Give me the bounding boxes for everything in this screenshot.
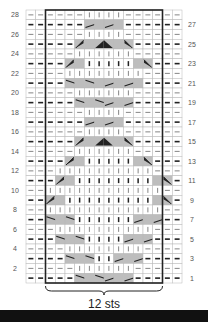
row-number-label: 15 bbox=[188, 138, 196, 145]
chart-cell bbox=[114, 137, 124, 147]
chart-cell bbox=[133, 59, 143, 69]
row-number-label: 22 bbox=[11, 70, 19, 77]
row-number-label: 9 bbox=[190, 197, 194, 204]
chart-cell bbox=[94, 78, 104, 88]
row-number-label: 25 bbox=[188, 41, 196, 48]
chart-cell bbox=[75, 156, 85, 166]
row-number-label: 7 bbox=[190, 216, 194, 223]
chart-cell bbox=[65, 176, 75, 186]
stitch-brace bbox=[46, 286, 163, 295]
row-number-label: 16 bbox=[11, 128, 19, 135]
row-number-label: 4 bbox=[13, 245, 17, 252]
chart-cell bbox=[114, 78, 124, 88]
chart-cell bbox=[114, 20, 124, 30]
chart-cell bbox=[75, 254, 85, 264]
row-number-label: 24 bbox=[11, 50, 19, 57]
stitch-count-label: 12 sts bbox=[88, 297, 120, 311]
chart-cell bbox=[55, 195, 65, 205]
chart-cell bbox=[85, 137, 95, 147]
chart-cell bbox=[85, 39, 95, 49]
chart-cell bbox=[133, 234, 143, 244]
bottom-bar bbox=[0, 310, 208, 322]
chart-cell bbox=[153, 176, 163, 186]
row-number-label: 18 bbox=[11, 109, 19, 116]
row-number-label: 27 bbox=[188, 21, 196, 28]
chart-cell bbox=[94, 20, 104, 30]
chart-cell bbox=[114, 39, 124, 49]
row-number-label: 6 bbox=[13, 226, 17, 233]
row-number-label: 5 bbox=[190, 236, 194, 243]
row-number-label: 20 bbox=[11, 89, 19, 96]
row-number-label: 3 bbox=[190, 255, 194, 262]
row-number-label: 17 bbox=[188, 119, 196, 126]
chart-cell bbox=[75, 59, 85, 69]
row-number-label: 19 bbox=[188, 99, 196, 106]
chart-cell bbox=[94, 117, 104, 127]
row-number-label: 13 bbox=[188, 158, 196, 165]
row-number-label: 28 bbox=[11, 11, 19, 18]
chart-cell bbox=[133, 78, 143, 88]
chart-cell bbox=[133, 156, 143, 166]
chart-cell bbox=[85, 98, 95, 108]
row-number-label: 1 bbox=[190, 275, 194, 282]
chart-cell bbox=[55, 215, 65, 225]
chart-cell bbox=[65, 234, 75, 244]
row-number-label: 21 bbox=[188, 80, 196, 87]
chart-cell bbox=[75, 78, 85, 88]
chart-cell bbox=[114, 273, 124, 283]
row-number-label: 2 bbox=[13, 265, 17, 272]
row-number-label: 11 bbox=[188, 177, 195, 184]
chart-cell bbox=[124, 254, 134, 264]
row-number-label: 10 bbox=[11, 187, 19, 194]
row-number-label: 23 bbox=[188, 60, 196, 67]
chart-cell bbox=[143, 215, 153, 225]
row-number-label: 26 bbox=[11, 31, 19, 38]
row-number-label: 12 bbox=[11, 167, 19, 174]
row-number-label: 8 bbox=[13, 206, 17, 213]
chart-cell bbox=[114, 117, 124, 127]
knitting-chart: 2826242220181614121086422725232119171513… bbox=[0, 0, 208, 322]
row-number-label: 14 bbox=[11, 148, 19, 155]
chart-cell bbox=[153, 195, 163, 205]
chart-cell bbox=[114, 98, 124, 108]
chart-cells bbox=[26, 10, 182, 283]
chart-cell bbox=[85, 273, 95, 283]
